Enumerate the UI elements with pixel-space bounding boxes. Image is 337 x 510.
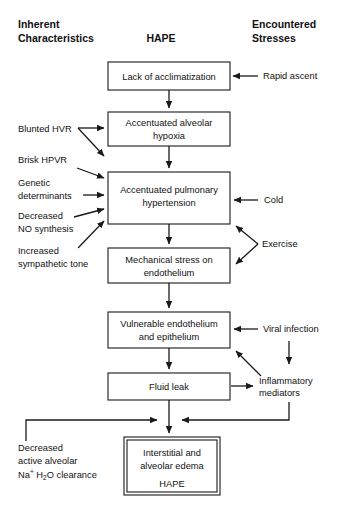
box-alveolar-hypoxia-line1: Accentuated alveolar [126,118,213,128]
label-na-clearance-line3: Na+ H2O clearance [18,468,97,481]
box-fluid-leak-label: Fluid leak [149,382,189,392]
label-inflammatory-line2: mediators [259,388,300,398]
label-blunted-hvr: Blunted HVR [18,124,72,134]
box-vulnerable-endothelium-line1: Vulnerable endothelium [120,319,218,329]
box-vulnerable-endothelium-line2: and epithelium [139,332,200,342]
label-no-synthesis-line1: Decreased [18,211,63,221]
arrow-sympathetic-to-hypertension [78,221,104,248]
box-pulmonary-hypertension-line2: hypertension [142,198,195,208]
label-sympathetic-line1: Increased [18,246,59,256]
label-sympathetic-line2: sympathetic tone [18,259,88,269]
box-edema-line2: alveolar edema [140,461,204,471]
arrow-exercise-to-hypertension [236,226,258,244]
arrow-blunted-hvr-to-hypertension [78,128,104,156]
header-left-line2: Characteristics [18,32,94,44]
box-edema-hape-label: HAPE [159,479,184,489]
header-right-line1: Encountered [252,18,316,30]
box-edema-line1: Interstitial and [143,448,201,458]
label-brisk-hpvr: Brisk HPVR [18,155,67,165]
box-mechanical-stress-line1: Mechanical stress on [125,255,212,265]
label-inflammatory-line1: Inflammatory [259,376,313,386]
box-pulmonary-hypertension-line1: Accentuated pulmonary [120,185,218,195]
box-alveolar-hypoxia-line2: hypoxia [153,131,186,141]
arrow-brisk-hpvr-to-hypertension [77,168,104,178]
arrow-exercise-to-mechanical-stress [236,244,258,264]
arrow-no-synthesis-to-hypertension [74,209,104,217]
box-vulnerable-endothelium [108,312,230,348]
header-left-line1: Inherent [18,18,60,30]
header-center: HAPE [146,32,175,44]
label-viral-infection: Viral infection [263,324,319,334]
arrow-inflammatory-to-edema [182,402,289,420]
label-na-clearance-line1: Decreased [18,443,63,453]
label-genetic-line2: determinants [18,191,72,201]
arrow-inflammatory-to-vulnerable [236,351,261,376]
label-rapid-ascent: Rapid ascent [263,71,318,81]
clearance-suffix: O clearance [47,470,97,480]
label-no-synthesis-line2: NO synthesis [18,224,74,234]
label-cold: Cold [264,195,283,205]
box-mechanical-stress-line2: endothelium [144,268,195,278]
hape-flowchart: Inherent Characteristics HAPE Encountere… [0,0,337,510]
label-exercise: Exercise [262,239,298,249]
h2o-prefix: H [34,470,43,480]
label-genetic-line1: Genetic [18,178,50,188]
na-symbol: Na [18,470,31,480]
flowchart-canvas: Inherent Characteristics HAPE Encountere… [0,0,337,510]
label-na-clearance-line2: active alveolar [18,456,77,466]
box-acclimatization-label: Lack of acclimatization [122,72,216,82]
header-right-line2: Stresses [252,32,296,44]
